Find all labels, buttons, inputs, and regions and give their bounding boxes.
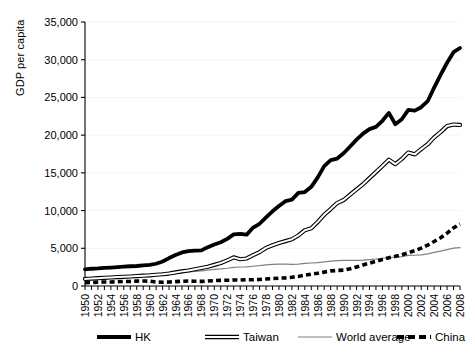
grid-lines: [85, 22, 460, 248]
x-axis-tick-label: 1970: [208, 294, 220, 318]
y-axis-tick-label: 35,000: [44, 16, 78, 28]
x-axis-tick-label: 1962: [157, 294, 169, 318]
x-axis-tick-label: 1958: [131, 294, 143, 318]
x-axis-tick-label: 1964: [170, 294, 182, 318]
y-axis-tick-label: 25,000: [44, 91, 78, 103]
x-axis-tick-label: 1994: [363, 294, 375, 318]
x-axis-tick-label: 1976: [247, 294, 259, 318]
chart-canvas: 05,00010,00015,00020,00025,00030,00035,0…: [0, 0, 475, 354]
x-axis-tick-label: 1974: [234, 294, 246, 318]
legend-label-hk: HK: [135, 331, 151, 343]
x-axis-tick-label: 1988: [325, 294, 337, 318]
x-axis-tick-label: 1952: [92, 294, 104, 318]
x-axis-tick-label: 1972: [221, 294, 233, 318]
y-axis-tick-label: 0: [72, 280, 78, 292]
x-axis: 1950195219541956195819601962196419661968…: [79, 286, 466, 317]
legend-label-china: China: [435, 331, 466, 343]
x-axis-tick-label: 2008: [454, 294, 466, 318]
y-axis-tick-label: 20,000: [44, 129, 78, 141]
x-axis-tick-label: 2004: [428, 294, 440, 318]
x-axis-tick-label: 1990: [338, 294, 350, 318]
y-axis-tick-label: 5,000: [50, 242, 78, 254]
x-axis-tick-label: 1982: [286, 294, 298, 318]
series-group: [85, 48, 460, 283]
y-axis-tick-label: 15,000: [44, 167, 78, 179]
x-axis-tick-label: 2006: [441, 294, 453, 318]
x-axis-tick-label: 1984: [299, 294, 311, 318]
x-axis-tick-label: 2002: [415, 294, 427, 318]
y-axis-tick-label: 10,000: [44, 205, 78, 217]
y-axis-tick-label: 30,000: [44, 54, 78, 66]
x-axis-tick-label: 1996: [376, 294, 388, 318]
x-axis-tick-label: 1956: [118, 294, 130, 318]
x-axis-tick-label: 2000: [402, 294, 414, 318]
x-axis-tick-label: 1968: [195, 294, 207, 318]
chart-legend: HKTaiwanWorld averageChina: [97, 331, 466, 343]
x-axis-tick-label: 1966: [182, 294, 194, 318]
x-axis-tick-label: 1950: [79, 294, 91, 318]
x-axis-tick-label: 1986: [312, 294, 324, 318]
x-axis-tick-label: 1992: [351, 294, 363, 318]
y-axis: 05,00010,00015,00020,00025,00030,00035,0…: [44, 16, 85, 292]
x-axis-tick-label: 1980: [273, 294, 285, 318]
x-axis-tick-label: 1998: [389, 294, 401, 318]
x-axis-tick-label: 1978: [260, 294, 272, 318]
legend-label-taiwan: Taiwan: [243, 331, 279, 343]
x-axis-tick-label: 1960: [144, 294, 156, 318]
x-axis-tick-label: 1954: [105, 294, 117, 318]
gdp-per-capita-line-chart: GDP per capita 05,00010,00015,00020,0002…: [0, 0, 475, 354]
